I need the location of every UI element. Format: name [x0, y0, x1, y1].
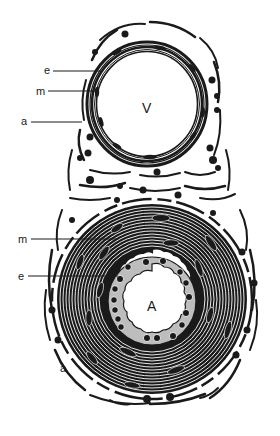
- vessel-cross-section-diagram: V A e m a m e a: [0, 0, 280, 436]
- label-endothelium-artery: e: [18, 270, 24, 282]
- vein-lumen-label: V: [142, 100, 152, 116]
- artery-lumen-label: A: [147, 298, 157, 314]
- vein-label-e: e: [44, 64, 101, 76]
- label-media-vein: m: [36, 85, 45, 97]
- label-endothelium-vein: e: [44, 64, 50, 76]
- label-media-artery: m: [18, 233, 27, 245]
- label-adventitia-artery: a: [60, 362, 67, 374]
- vein-label-a: a: [21, 115, 82, 127]
- label-adventitia-vein: a: [21, 115, 28, 127]
